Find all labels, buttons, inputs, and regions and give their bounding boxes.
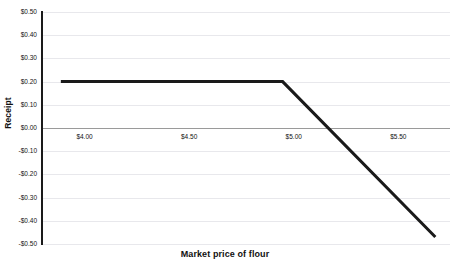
chart-container: Receipt $0.50$0.40$0.30$0.20$0.10$0.00-$… <box>0 0 450 263</box>
series-line <box>61 82 436 237</box>
series-layer <box>0 0 450 263</box>
x-axis-title: Market price of flour <box>0 249 450 259</box>
